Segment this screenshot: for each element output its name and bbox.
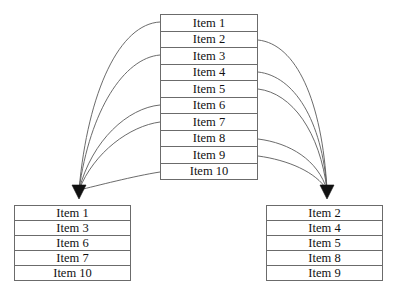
diagram-canvas: Item 1 Item 2 Item 3 Item 4 Item 5 Item … xyxy=(0,0,395,299)
table-row: Item 2 xyxy=(267,206,382,221)
table-row: Item 8 xyxy=(161,131,257,148)
right-arrowhead-icon xyxy=(320,185,334,199)
connector-curve-right-4 xyxy=(258,72,327,190)
table-row: Item 7 xyxy=(161,114,257,131)
right-list-table: Item 2 Item 4 Item 5 Item 8 Item 9 xyxy=(266,205,383,281)
table-row: Item 5 xyxy=(267,236,382,251)
left-arrowhead-icon xyxy=(72,185,86,199)
table-row: Item 1 xyxy=(161,15,257,32)
table-row: Item 6 xyxy=(161,98,257,115)
connector-curve-left-10 xyxy=(79,172,160,190)
table-row: Item 4 xyxy=(267,221,382,236)
connector-curve-right-8 xyxy=(258,139,327,190)
connector-curve-left-6 xyxy=(79,105,160,190)
table-row: Item 6 xyxy=(15,236,130,251)
connector-curve-right-2 xyxy=(258,40,327,190)
table-row: Item 10 xyxy=(15,266,130,280)
connector-curve-right-9 xyxy=(258,156,327,190)
table-row: Item 1 xyxy=(15,206,130,221)
table-row: Item 3 xyxy=(161,48,257,65)
connector-curve-left-1 xyxy=(79,22,160,190)
table-row: Item 8 xyxy=(267,251,382,266)
table-row: Item 4 xyxy=(161,65,257,82)
table-row: Item 9 xyxy=(267,266,382,280)
table-row: Item 7 xyxy=(15,251,130,266)
table-row: Item 2 xyxy=(161,32,257,49)
table-row: Item 10 xyxy=(161,164,257,180)
table-row: Item 9 xyxy=(161,147,257,164)
connector-curve-left-3 xyxy=(79,55,160,190)
left-list-table: Item 1 Item 3 Item 6 Item 7 Item 10 xyxy=(14,205,131,281)
connector-curve-right-5 xyxy=(258,89,327,190)
source-list-table: Item 1 Item 2 Item 3 Item 4 Item 5 Item … xyxy=(160,14,258,180)
connector-curve-left-7 xyxy=(79,122,160,190)
table-row: Item 3 xyxy=(15,221,130,236)
table-row: Item 5 xyxy=(161,81,257,98)
